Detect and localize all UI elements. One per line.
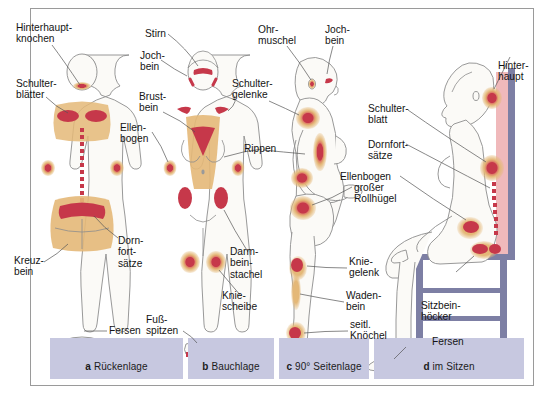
label-fersen-d: Fersen [432, 336, 464, 347]
hotspot-scapula-right [85, 110, 107, 122]
label-ellenbogen-d: Ellenbogen [340, 171, 391, 182]
label-rippen: Rippen [244, 143, 276, 154]
caption-c-text: 90° Seitenlage [295, 361, 362, 372]
label-hinterhauptknochen: Hinterhaupt- knochen [16, 22, 72, 45]
hotspot-iliac-right [214, 187, 228, 209]
hotspot-elbow-left-b [164, 160, 177, 176]
label-schulterblatt: Schulter- blatt [368, 103, 409, 126]
label-schulterblaetter: Schulter- blätter [16, 78, 57, 101]
hotspot-fibula [291, 274, 301, 310]
caption-a-text: Rückenlage [94, 361, 148, 372]
label-fussspitzen: Fuß- spitzen [146, 314, 178, 337]
label-jochbein-c: Joch- bein [325, 24, 350, 47]
caption-bar-a: a Rückenlage [50, 338, 183, 379]
caption-a-letter: a [85, 361, 91, 372]
hotspot-scapula-d [480, 155, 504, 181]
label-kniescheibe: Knie- scheibe [222, 290, 257, 313]
hotspot-elbow-left [41, 160, 55, 176]
hotspot-occiput-d [482, 87, 502, 109]
hotspot-ribs [313, 133, 327, 171]
hotspot-knee-c [291, 258, 303, 272]
label-kniegelenk: Knie- gelenk [349, 256, 379, 279]
caption-d: d im Sitzen [374, 361, 524, 372]
hotspot-patella-right [206, 251, 226, 273]
label-fersen: Fersen [109, 325, 141, 336]
label-sitzbeinhoecker: Sitzbein- höcker [421, 300, 461, 323]
caption-c-letter: c [286, 361, 292, 372]
hotspot-shoulder-left [177, 107, 191, 114]
hotspot-scapula-left [57, 110, 79, 122]
label-kreuzbein: Kreuz- bein [14, 255, 44, 278]
label-grosser-rollhuegel: großer Rollhügel [354, 182, 396, 205]
caption-d-letter: d [423, 361, 429, 372]
caption-c: c 90° Seitenlage [279, 361, 369, 372]
caption-a: a Rückenlage [50, 361, 183, 372]
hotspot-elbow-right [110, 160, 124, 176]
pressure-points-illustration: a Rückenlage b Bauchlage c 90° Seitenlag… [0, 0, 544, 404]
hotspot-ischium-right [489, 244, 501, 254]
label-dornfortsaetze-d: Dornfort- sätze [368, 139, 408, 162]
hotspot-ischium-left [472, 244, 488, 254]
hotspot-elbow-right-b [232, 160, 245, 176]
label-brustbein: Brust- bein [139, 91, 166, 114]
hotspot-shoulder-c [296, 107, 320, 129]
caption-bar-c: c 90° Seitenlage [279, 338, 369, 379]
label-dornfortsaetze: Dorn- fort- sätze [118, 235, 143, 269]
label-jochbein: Joch- bein [140, 50, 165, 73]
label-ohrmuschel: Ohr- muschel [258, 24, 296, 47]
chair-stretcher-upper [416, 288, 507, 293]
label-darmbeinstachel: Darm- bein- stachel [230, 246, 262, 280]
hotspot-ear [309, 79, 316, 89]
hotspot-elbow-d [463, 221, 479, 233]
label-stirn: Stirn [145, 28, 166, 39]
caption-bar-b: b Bauchlage [188, 338, 274, 379]
caption-b: b Bauchlage [188, 361, 274, 372]
chair-back-post [508, 68, 515, 258]
hotspot-iliac-left [178, 187, 192, 209]
label-seitl-knoechel: seitl. Knöchel [350, 319, 387, 342]
hotspot-occiput [73, 82, 91, 90]
hotspot-patella-left [180, 251, 200, 273]
hotspot-trochanter [290, 196, 316, 220]
caption-d-text: im Sitzen [433, 361, 475, 372]
label-schultergelenke: Schulter- gelenke [232, 78, 273, 101]
hotspot-elbow-c [291, 168, 313, 188]
label-hinterhaupt: Hinter- haupt [498, 60, 529, 83]
label-wadenbein: Waden- bein [346, 290, 381, 313]
caption-b-text: Bauchlage [211, 361, 259, 372]
label-ellenbogen: Ellen- bogen [120, 122, 148, 145]
caption-b-letter: b [202, 361, 208, 372]
